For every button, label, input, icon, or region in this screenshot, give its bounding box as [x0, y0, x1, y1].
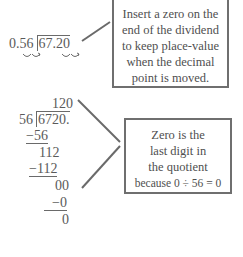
bottom-callout-line: Zero is the: [126, 127, 230, 143]
bottom-callout-line: because 0 ÷ 56 = 0: [126, 175, 230, 191]
subtract-step-2: −112: [29, 161, 57, 177]
top-divisor: 0.56: [9, 36, 34, 51]
top-dividend: 67.20: [37, 35, 71, 51]
subtract-step-1: −56: [26, 128, 48, 144]
bottom-callout-box: Zero is the last digit in the quotient b…: [124, 118, 232, 194]
dividend-decimal-shift-arrows: [62, 53, 79, 57]
top-callout-box: Insert a zero on the end of the dividend…: [112, 0, 229, 88]
top-callout-line: end of the dividend: [114, 22, 227, 38]
top-callout-line: Insert a zero on the: [114, 6, 227, 22]
dividend: 6720.: [36, 111, 70, 127]
top-division-problem: 0.5667.20: [9, 37, 70, 51]
bottom-callout-line: the quotient: [126, 159, 230, 175]
remainder-step-2: 00: [55, 179, 69, 193]
remainder-step-1: 112: [39, 146, 59, 160]
top-callout-line: point is moved.: [114, 70, 227, 86]
top-callout-line: when the decimal: [114, 54, 227, 70]
subtract-step-3: −0: [44, 195, 67, 211]
top-callout-line: to keep place-value: [114, 38, 227, 54]
divisor: 56: [19, 112, 33, 127]
bottom-callout-line: last digit in: [126, 143, 230, 159]
divisor-decimal-shift-arrows: [23, 53, 40, 57]
long-division-header: 566720.: [19, 113, 70, 127]
final-remainder: 0: [62, 213, 69, 227]
quotient: 120: [52, 97, 73, 111]
